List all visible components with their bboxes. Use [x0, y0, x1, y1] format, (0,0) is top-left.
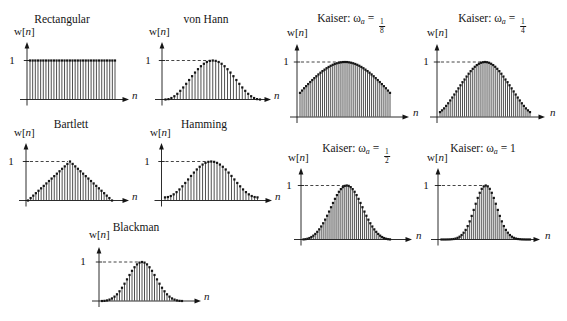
y-axis-label: w[n]: [427, 27, 448, 39]
x-axis-label: n: [413, 107, 419, 119]
stem-plot: [0, 0, 567, 321]
plot-rectangular: Rectangular w[n] 1 n: [0, 0, 567, 321]
y-tick-label: 1: [9, 55, 15, 67]
stem-plot: [0, 0, 567, 321]
y-axis-label: w[n]: [149, 26, 170, 38]
plot-kaiser-1-8: Kaiser: ωa = 18 w[n] 1 n: [0, 0, 567, 321]
plot-title: Bartlett: [54, 118, 91, 132]
plot-title: Kaiser: ωa = 14: [458, 12, 526, 35]
y-axis-label: w[n]: [287, 27, 308, 39]
stem-plot: [0, 0, 567, 321]
stem-plot: [0, 0, 567, 321]
x-axis-label: n: [274, 90, 280, 102]
y-axis-label: w[n]: [89, 229, 110, 241]
y-tick-label: 1: [423, 56, 429, 68]
stem-plot: [0, 0, 567, 321]
y-axis-label: w[n]: [150, 127, 171, 139]
stem-plot: [0, 0, 567, 321]
x-axis-label: n: [545, 230, 551, 242]
plot-blackman: Blackman w[n] 1 n: [0, 0, 567, 321]
plot-kaiser-1: Kaiser: ωa = 1 w[n] 1 n: [0, 0, 567, 321]
y-axis-label: w[n]: [14, 26, 35, 38]
plot-kaiser-1-4: Kaiser: ωa = 14 w[n] 1 n: [0, 0, 567, 321]
plot-von-hann: von Hann w[n] 1 n: [0, 0, 567, 321]
y-tick-label: 1: [144, 156, 150, 168]
fraction: 12: [384, 148, 390, 165]
x-axis-label: n: [204, 291, 210, 303]
y-tick-label: 1: [8, 156, 14, 168]
plot-bartlett: Bartlett w[n] 1 n: [0, 0, 567, 321]
y-tick-label: 1: [423, 180, 429, 192]
y-tick-label: 1: [80, 256, 86, 268]
x-axis-label: n: [132, 90, 138, 102]
plot-title: Blackman: [113, 221, 162, 235]
plot-title: Kaiser: ωa = 18: [317, 12, 385, 35]
plot-kaiser-1-2: Kaiser: ωa = 12 w[n] 1 n: [0, 0, 567, 321]
window-functions-figure: Rectangular w[n] 1 n von Hann w[n] 1 n K…: [0, 0, 567, 321]
x-axis-label: n: [416, 230, 422, 242]
y-axis-label: w[n]: [427, 152, 448, 164]
y-tick-label: 1: [283, 56, 289, 68]
plot-title: von Hann: [183, 13, 230, 27]
stem-plot: [0, 0, 567, 321]
stem-plot: [0, 0, 567, 321]
x-axis-label: n: [275, 191, 281, 203]
y-tick-label: 1: [286, 180, 292, 192]
plot-hamming: Hamming w[n] 1 n: [0, 0, 567, 321]
plot-title: Rectangular: [34, 13, 92, 27]
y-tick-label: 1: [145, 55, 151, 67]
y-axis-label: w[n]: [14, 127, 35, 139]
plot-title: Hamming: [181, 118, 229, 132]
x-axis-label: n: [132, 191, 138, 203]
y-axis-label: w[n]: [288, 152, 309, 164]
x-axis-label: n: [550, 107, 556, 119]
plot-title: Kaiser: ωa = 12: [322, 142, 390, 165]
plot-title: Kaiser: ωa = 1: [450, 142, 518, 156]
fraction: 18: [379, 18, 385, 35]
stem-plot: [0, 0, 567, 321]
fraction: 14: [520, 18, 526, 35]
